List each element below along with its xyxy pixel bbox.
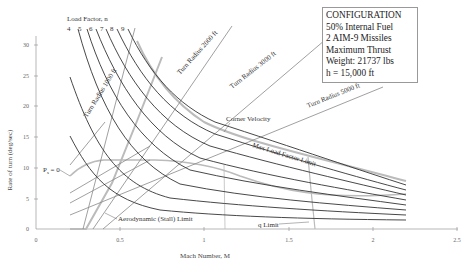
config-thrust: Maximum Thrust [326, 45, 414, 57]
config-weight: Weight: 21737 lbs [326, 56, 414, 68]
stall-limit-label: Aerodynamic (Stall) Limit [118, 215, 193, 223]
n-label: 5 [78, 25, 82, 33]
n-label: 9 [121, 25, 125, 33]
config-missiles: 2 AIM-9 Missiles [326, 33, 414, 45]
n-label: 6 [89, 25, 93, 33]
y-tick: 25 [23, 73, 29, 79]
ps-zero-label: Ps = 0 [43, 166, 60, 175]
config-fuel: 50% Internal Fuel [326, 22, 414, 34]
corner-velocity-label: Corner Velocity [226, 115, 271, 123]
y-tick: 0 [26, 226, 29, 232]
q-limit-label: q Limit [258, 221, 279, 229]
x-tick-labels: 0 0.5 1 1.5 2 2.5 [35, 237, 461, 243]
stall-limit-line [70, 57, 162, 229]
y-tick: 5 [26, 196, 29, 202]
config-title: CONFIGURATION [326, 10, 414, 22]
turn-radius-3000-label: Turn Radius 3000 ft [228, 50, 277, 91]
ps-zero-line [70, 160, 406, 196]
q-limit-pointer [279, 222, 309, 224]
x-axis-label: Mach Number, M [180, 252, 231, 260]
turn-radius-2000-line [93, 26, 232, 229]
y-tick: 30 [23, 42, 29, 48]
y-tick: 20 [23, 103, 29, 109]
stall-pointer [105, 213, 117, 219]
turn-radius-2000-label: Turn Radius 2000 ft [176, 29, 220, 76]
load-factor-title: Load Factor, n [67, 15, 108, 23]
corner-velocity-line [224, 165, 225, 229]
n-label: 8 [110, 25, 114, 33]
ps-zero-pointer [60, 170, 70, 176]
configuration-box: CONFIGURATION 50% Internal Fuel 2 AIM-9 … [322, 7, 418, 83]
x-tick: 0.5 [116, 237, 124, 243]
y-tick: 15 [23, 134, 29, 140]
n-label: 7 [100, 25, 104, 33]
config-altitude: h = 15,000 ft [326, 68, 414, 80]
x-tick: 1 [203, 237, 206, 243]
load-factor-curve-2 [70, 136, 406, 220]
x-tick: 2 [372, 237, 375, 243]
turn-radius-5000-label: Turn Radius 5000 ft [306, 81, 361, 110]
turn-radius-3000-line [103, 40, 325, 229]
x-tick: 0 [35, 237, 38, 243]
x-tick: 2.5 [453, 237, 461, 243]
n-label: 4 [67, 25, 71, 33]
y-axis-label: Rate of turn (deg/sec) [6, 129, 14, 191]
x-tick: 1.5 [285, 237, 293, 243]
y-tick-labels: 0 5 10 15 20 25 30 [23, 42, 29, 232]
y-tick: 10 [23, 165, 29, 171]
